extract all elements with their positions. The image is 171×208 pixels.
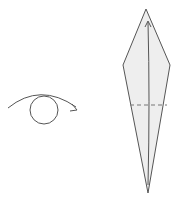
kite-model [123,9,170,193]
turn-over-symbol [8,95,77,124]
turn-over-arc-icon [8,95,76,108]
origami-diagram [0,0,171,208]
kite-paper [123,9,170,193]
turn-over-circle-icon [30,96,58,124]
arrowhead-icon [70,104,77,111]
